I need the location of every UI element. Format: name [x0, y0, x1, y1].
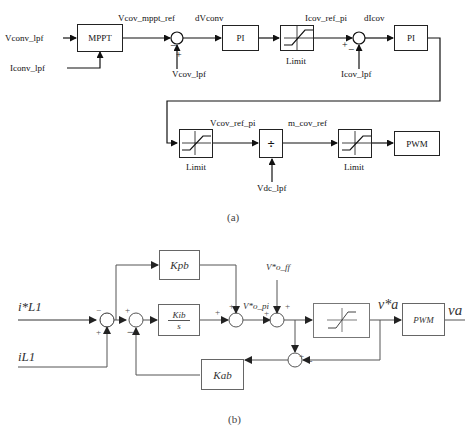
input-vff: V*o_ff — [266, 263, 290, 272]
signal-dvconv: dVconv — [195, 14, 224, 23]
limit-label-3: Limit — [344, 163, 364, 172]
input-iref: i*L1 — [18, 300, 42, 313]
sumD-plus-left: + — [264, 309, 269, 318]
signal-m-cov-ref: m_cov_ref — [288, 119, 327, 128]
pi-block-1: PI — [222, 25, 259, 51]
caption-a: (a) — [227, 211, 239, 223]
signal-vcov-mppt-ref: Vcov_mppt_ref — [118, 14, 175, 23]
kib-over-s-block: Kib s — [158, 304, 200, 336]
input-vcov-lpf: Vcov_lpf — [172, 70, 206, 79]
sumB-plus-sign: + — [125, 306, 130, 315]
pi-block-2: PI — [394, 25, 428, 51]
limit-block-1 — [280, 25, 314, 51]
sumC-plus-top: + — [229, 302, 234, 311]
limit-label-1: Limit — [286, 57, 306, 66]
divide-block: ÷ — [259, 129, 283, 158]
kib-label: Kib — [168, 310, 189, 321]
sumA-minus-sign: − — [96, 306, 101, 315]
kab-block: Kab — [201, 359, 244, 390]
input-il1: iL1 — [18, 350, 35, 363]
input-vconv-lpf: Vconv_lpf — [5, 34, 44, 43]
pwm-block-a: PWM — [394, 131, 440, 156]
output-va: va — [448, 303, 462, 318]
kpb-label: Kpb — [170, 259, 188, 271]
sum1-plus-sign: + — [176, 50, 182, 60]
sumD-plus-top: + — [285, 302, 290, 311]
limit-block-2 — [179, 129, 213, 158]
sumC-plus-left: + — [215, 308, 220, 317]
signal-dicov: dIcov — [364, 14, 385, 23]
input-iconv-lpf: Iconv_lpf — [10, 64, 45, 73]
caption-b: (b) — [228, 413, 241, 425]
s-label: s — [177, 321, 181, 331]
sum2-minus-sign: − — [348, 44, 354, 55]
limiter-block-b — [313, 303, 370, 338]
sumE-plus-sign: + — [299, 352, 304, 361]
limit-label-2: Limit — [186, 163, 206, 172]
limit-block-3 — [338, 129, 372, 158]
sumE-minus-sign: − — [306, 355, 313, 367]
input-icov-lpf: Icov_lpf — [341, 70, 372, 79]
sumB-minus-sign: − — [127, 326, 134, 338]
sumA-plus-sign: + — [96, 328, 101, 337]
pwm-block-b: PWM — [402, 303, 445, 336]
mppt-block: MPPT — [77, 24, 123, 52]
kpb-block: Kpb — [159, 250, 200, 280]
signal-va-star: v*a — [378, 298, 398, 312]
signal-icov-ref-pi: Icov_ref_pi — [305, 14, 347, 23]
kab-label: Kab — [213, 369, 231, 381]
input-vdc-lpf: Vdc_lpf — [257, 184, 287, 193]
sum2-plus-sign: + — [342, 40, 348, 50]
signal-vcov-ref-pi: Vcov_ref_pi — [210, 119, 255, 128]
